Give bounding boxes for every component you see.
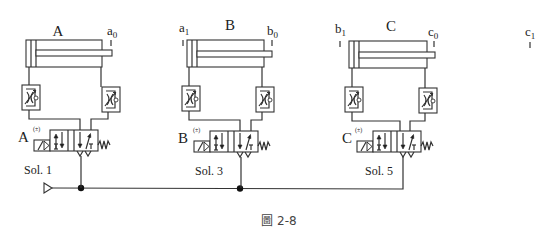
- flow-control-valve: [345, 87, 363, 112]
- valve-sign: (±): [355, 127, 362, 134]
- valve-label: C: [342, 130, 352, 146]
- cylinder-c: [349, 41, 435, 68]
- solenoid-valve-5-2: [357, 131, 433, 157]
- limit-switch-label: a1: [179, 20, 189, 37]
- flow-control-valve: [419, 88, 437, 113]
- limit-switch-label: c1: [525, 24, 535, 41]
- unit-a: A a0 A (±) Sol. 1: [18, 23, 120, 188]
- supply-line: [44, 156, 403, 193]
- solenoid-label: Sol. 1: [24, 163, 52, 177]
- cylinder-a: [26, 40, 112, 67]
- cylinder-b: [187, 40, 272, 67]
- valve-label: B: [178, 130, 188, 146]
- limit-switch-label: b0: [267, 23, 279, 40]
- pressure-source-icon: [44, 183, 52, 193]
- cylinder-label: B: [225, 17, 235, 33]
- junction-dot: [237, 185, 243, 191]
- flow-control-valve: [102, 87, 120, 112]
- limit-switch-label: b1: [335, 21, 346, 38]
- unit-b: a1 B b0 B (±) Sol. 3: [178, 17, 279, 188]
- limit-switch-label: c0: [428, 24, 439, 41]
- cylinder-label: A: [53, 23, 64, 39]
- limit-switch-c1: c1: [525, 24, 535, 48]
- cylinder-label: C: [386, 18, 396, 34]
- flow-control-valve: [22, 85, 40, 110]
- limit-switch-label: a0: [107, 23, 118, 40]
- unit-c: b1 C c0 C (±) Sol. 5: [335, 18, 439, 178]
- solenoid-label: Sol. 3: [195, 164, 223, 178]
- flow-control-valve: [256, 87, 274, 112]
- valve-label: A: [18, 129, 29, 145]
- valve-sign: (±): [33, 126, 40, 133]
- valve-sign: (±): [193, 127, 200, 134]
- pneumatic-circuit-diagram: A a0 A (±) Sol. 1 a1 B b0: [0, 0, 557, 239]
- solenoid-label: Sol. 5: [365, 164, 393, 178]
- figure-caption: 圖 2-8: [261, 214, 296, 228]
- solenoid-valve-5-2: [194, 131, 270, 157]
- flow-control-valve: [182, 86, 200, 111]
- solenoid-valve-5-2: [34, 130, 110, 156]
